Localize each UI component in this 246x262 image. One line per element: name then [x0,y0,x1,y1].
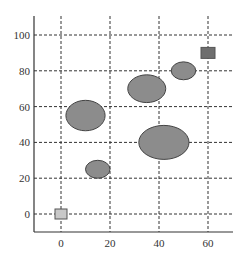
ellipse-marker [139,125,189,159]
x-tick-label: 60 [203,237,215,249]
y-tick-label: 0 [25,208,31,220]
x-tick-label: 40 [154,237,166,249]
y-tick-label: 40 [19,136,31,148]
x-tick-label: 0 [58,237,64,249]
y-tick-label: 20 [19,172,31,184]
data-markers [55,47,215,219]
bubble-chart: 0204060020406080100 [0,0,246,262]
ellipse-marker [128,75,166,103]
ellipse-marker [86,160,111,178]
ellipse-marker [66,100,105,130]
y-tick-label: 60 [19,101,31,113]
y-tick-label: 80 [19,65,31,77]
square-marker [55,209,67,219]
y-tick-label: 100 [14,29,31,41]
square-marker [201,47,215,58]
x-tick-label: 20 [105,237,117,249]
ellipse-marker [171,62,196,80]
